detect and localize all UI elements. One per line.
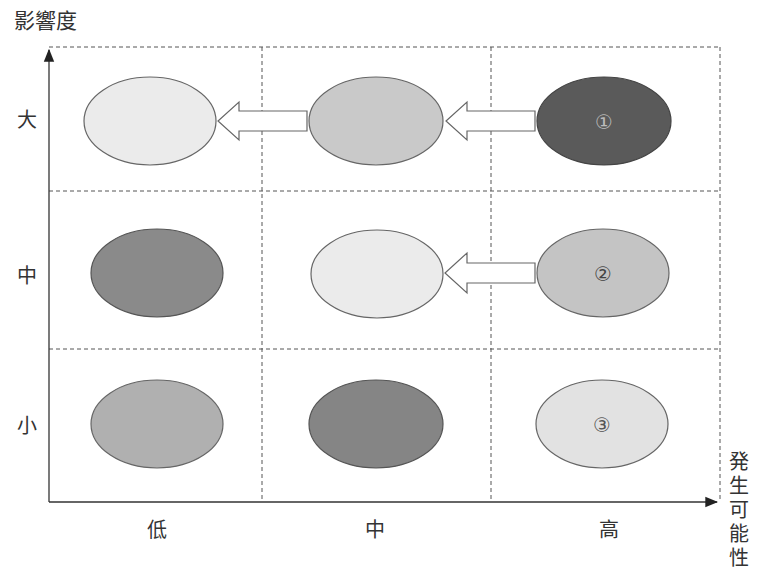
risk-ellipse-medium-low [91, 229, 223, 317]
risk-ellipse-small-low [91, 380, 223, 468]
risk-matrix-diagram: ① ② ③ [0, 0, 767, 568]
risk-ellipse-medium-medium [311, 230, 443, 318]
left-arrow-icon [445, 253, 535, 293]
risk-ellipse-small-medium [309, 380, 443, 468]
marker-3: ③ [593, 413, 611, 437]
risk-ellipse-large-low [84, 77, 216, 165]
marker-2: ② [594, 262, 612, 286]
marker-1: ① [595, 110, 613, 134]
risk-ellipse-large-medium [309, 77, 443, 165]
